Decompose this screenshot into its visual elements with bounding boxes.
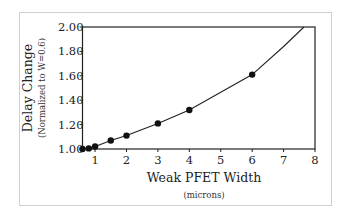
x-axis-subtitle: (microns) — [183, 190, 224, 200]
line-chart: 1.001.201.401.601.802.00 12345678 Weak P… — [0, 0, 352, 220]
x-tick-label: 4 — [186, 153, 193, 167]
data-point — [79, 146, 85, 152]
x-axis-ticks: 12345678 — [91, 149, 318, 167]
data-point — [108, 137, 114, 143]
y-tick-label: 1.80 — [58, 44, 84, 58]
y-axis-subtitle: (Normalized to W=0.6) — [37, 38, 47, 138]
data-point — [249, 71, 255, 77]
y-tick-label: 1.20 — [58, 118, 84, 132]
x-tick-label: 7 — [280, 153, 287, 167]
data-series — [79, 27, 304, 152]
x-tick-label: 1 — [91, 153, 98, 167]
x-axis-title: Weak PFET Width — [147, 170, 261, 185]
y-tick-label: 1.40 — [58, 93, 84, 107]
data-point — [155, 120, 161, 126]
y-axis-ticks: 1.001.201.401.601.802.00 — [58, 20, 84, 156]
y-axis-title: Delay Change — [20, 44, 35, 132]
x-tick-label: 3 — [154, 153, 161, 167]
x-tick-label: 2 — [123, 153, 130, 167]
plot-area — [83, 27, 316, 149]
data-point — [86, 145, 92, 151]
y-tick-label: 1.60 — [58, 69, 84, 83]
x-tick-label: 8 — [311, 153, 318, 167]
series-line — [83, 27, 305, 149]
plot-border — [83, 27, 316, 149]
x-tick-label: 5 — [217, 153, 224, 167]
y-tick-label: 2.00 — [58, 20, 84, 34]
data-point — [92, 143, 98, 149]
data-point — [186, 107, 192, 113]
x-tick-label: 6 — [248, 153, 255, 167]
data-point — [123, 132, 129, 138]
